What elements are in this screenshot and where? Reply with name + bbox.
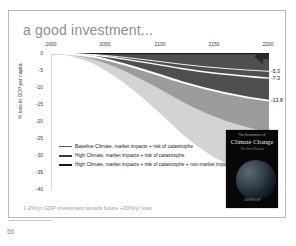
legend-label: High Climate, market impacts + risk of c… bbox=[75, 162, 233, 167]
legend-label: High Climate, market impacts + risk of c… bbox=[75, 153, 184, 158]
legend-swatch-line-icon bbox=[59, 146, 72, 147]
legend-label: Baseline Climate, market impacts + risk … bbox=[75, 144, 193, 149]
y-tick-label: -15 bbox=[21, 101, 43, 107]
x-tick-label: 2100 bbox=[154, 41, 165, 47]
slide-caption: 1-2%/yr GDP investment avoids future +20… bbox=[23, 205, 152, 211]
y-axis-label: % loss in GDP per capita bbox=[17, 64, 23, 120]
x-tick-label: 2150 bbox=[208, 41, 219, 47]
y-tick-label: 0 bbox=[21, 50, 43, 56]
book-title-label: Climate Change bbox=[226, 138, 278, 145]
y-tick-label: -5 bbox=[21, 67, 43, 73]
legend-item-baseline: Baseline Climate, market impacts + risk … bbox=[59, 144, 244, 150]
book-cover-text-block: The Economics of Climate Change The Ster… bbox=[226, 133, 278, 151]
footer-divider bbox=[8, 220, 52, 221]
chart-legend: Baseline Climate, market impacts + risk … bbox=[59, 144, 244, 171]
x-tick-label: 2050 bbox=[99, 41, 110, 47]
y-tick-label: -10 bbox=[21, 84, 43, 90]
y-tick-label: -30 bbox=[21, 152, 43, 158]
y-tick-label: -20 bbox=[21, 118, 43, 124]
end-value-label-high: -7.3 bbox=[271, 75, 280, 81]
page-title: a good investment... bbox=[23, 22, 153, 38]
book-cover-image: The Economics of Climate Change The Ster… bbox=[226, 130, 278, 208]
y-tick-label: -25 bbox=[21, 135, 43, 141]
book-publisher-label: CAMBRIDGE bbox=[226, 198, 278, 202]
legend-item-high-nonmarket: High Climate, market impacts + risk of c… bbox=[59, 162, 244, 168]
book-author-label: The Stern Review bbox=[226, 147, 278, 151]
y-tick-label: -35 bbox=[21, 169, 43, 175]
legend-item-high: High Climate, market impacts + risk of c… bbox=[59, 153, 244, 159]
slide-frame: a good investment... 2000 2050 2100 2150… bbox=[8, 10, 286, 218]
end-value-label-high-nonmarket: -13.8 bbox=[271, 97, 283, 103]
legend-swatch-line-icon bbox=[59, 155, 72, 156]
x-tick-label: 2200 bbox=[262, 41, 273, 47]
x-tick-label: 2000 bbox=[45, 41, 56, 47]
globe-graphic bbox=[236, 160, 276, 200]
end-value-label-baseline: -5.3 bbox=[271, 68, 280, 74]
book-series-label: The Economics of bbox=[226, 133, 278, 137]
legend-swatch-line-icon bbox=[59, 164, 72, 166]
page-number: 56 bbox=[7, 228, 14, 235]
y-tick-label: -40 bbox=[21, 186, 43, 192]
